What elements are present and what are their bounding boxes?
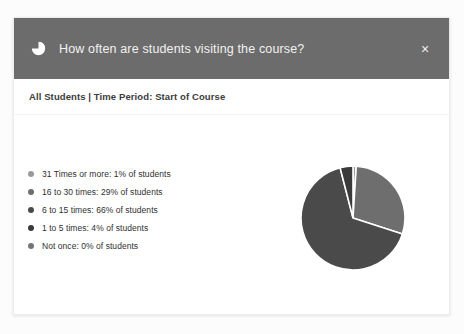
dialog-subtitle-row: All Students | Time Period: Start of Cou… (14, 79, 449, 114)
chart-legend: 31 Times or more: 1% of students 16 to 3… (28, 165, 243, 255)
legend-swatch-icon (28, 225, 34, 231)
list-item[interactable]: 1 to 5 times: 4% of students (28, 219, 243, 237)
legend-item-label: 31 Times or more: 1% of students (42, 169, 171, 179)
pie-chart-icon (30, 40, 47, 57)
dialog-header: How often are students visiting the cour… (14, 18, 449, 79)
legend-swatch-icon (28, 207, 34, 213)
dialog-body: 31 Times or more: 1% of students 16 to 3… (14, 115, 449, 315)
legend-item-label: 6 to 15 times: 66% of students (42, 205, 158, 215)
legend-item-label: Not once: 0% of students (42, 241, 138, 251)
list-item[interactable]: 6 to 15 times: 66% of students (28, 201, 243, 219)
list-item[interactable]: 31 Times or more: 1% of students (28, 165, 243, 183)
pie-chart[interactable] (300, 165, 406, 271)
pie-chart-svg (300, 165, 406, 271)
legend-swatch-icon (28, 171, 34, 177)
legend-item-label: 1 to 5 times: 4% of students (42, 223, 148, 233)
filter-summary-label: All Students | Time Period: Start of Cou… (29, 91, 225, 102)
screen: How often are students visiting the cour… (0, 0, 464, 334)
dialog-title: How often are students visiting the cour… (59, 41, 415, 57)
close-icon[interactable]: × (415, 39, 435, 59)
legend-item-label: 16 to 30 times: 29% of students (42, 187, 163, 197)
list-item[interactable]: 16 to 30 times: 29% of students (28, 183, 243, 201)
legend-swatch-icon (28, 243, 34, 249)
list-item[interactable]: Not once: 0% of students (28, 237, 243, 255)
analytics-dialog-card: How often are students visiting the cour… (13, 17, 450, 315)
legend-swatch-icon (28, 189, 34, 195)
